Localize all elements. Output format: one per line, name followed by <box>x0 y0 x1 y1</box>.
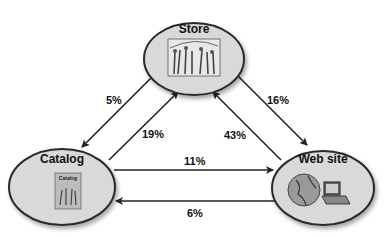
catalog-book-icon: Catalog <box>55 173 81 209</box>
edge-label-store-website: 16% <box>267 94 289 106</box>
channel-flow-diagram: 5% 19% 16% 43% 11% 6% Store Catalog Cata… <box>0 0 388 237</box>
edge-label-website-catalog: 6% <box>187 207 203 219</box>
edge-label-store-catalog: 5% <box>106 94 122 106</box>
node-catalog-label: Catalog <box>40 152 84 166</box>
edge-store-to-website <box>238 76 307 145</box>
node-store-label: Store <box>179 22 210 36</box>
node-website-label: Web site <box>298 152 347 166</box>
edge-label-catalog-store: 19% <box>142 128 164 140</box>
node-catalog: Catalog Catalog <box>9 149 115 225</box>
catalog-cover-text: Catalog <box>59 175 77 181</box>
store-photo-icon <box>168 39 220 76</box>
node-website: Web site <box>272 151 374 225</box>
edge-label-website-store: 43% <box>224 129 246 141</box>
node-store: Store <box>144 22 244 95</box>
edge-label-catalog-website: 11% <box>184 155 206 167</box>
